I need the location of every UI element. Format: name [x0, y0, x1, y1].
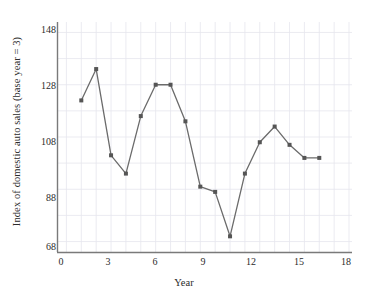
- data-point-marker: [169, 83, 173, 87]
- data-point-marker: [302, 156, 306, 160]
- data-point-marker: [124, 172, 128, 176]
- data-point-marker: [273, 125, 277, 129]
- chart-figure: Index of domestic auto sales (base year …: [0, 0, 368, 299]
- data-point-marker: [243, 172, 247, 176]
- data-point-marker: [94, 67, 98, 71]
- x-axis-tick-labels: 0 3 6 9 12 15 18: [0, 256, 368, 272]
- data-point-marker: [258, 140, 262, 144]
- x-tick-label: 9: [201, 256, 206, 267]
- x-tick-label: 3: [106, 256, 111, 267]
- data-point-marker: [109, 153, 113, 157]
- data-point-marker: [79, 98, 83, 102]
- data-point-marker: [228, 234, 232, 238]
- data-point-marker: [317, 156, 321, 160]
- data-point-marker: [139, 114, 143, 118]
- data-point-marker: [183, 119, 187, 123]
- x-tick-label: 6: [153, 256, 158, 267]
- plot-area: [0, 0, 368, 299]
- gridlines: [58, 22, 353, 252]
- x-tick-label: 12: [246, 256, 256, 267]
- x-tick-label: 18: [341, 256, 351, 267]
- x-axis-title: Year: [0, 277, 368, 288]
- data-point-marker: [213, 190, 217, 194]
- x-tick-label: 15: [294, 256, 304, 267]
- data-point-marker: [154, 83, 158, 87]
- data-point-marker: [288, 143, 292, 147]
- x-tick-label: 0: [59, 256, 64, 267]
- data-point-marker: [198, 185, 202, 189]
